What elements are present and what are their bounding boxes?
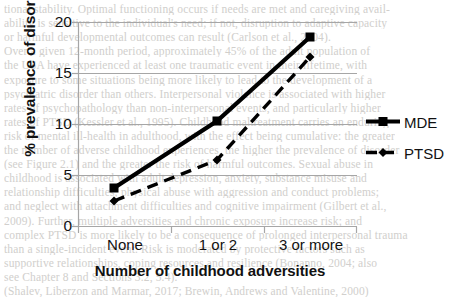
ptsd-marker-none [110, 197, 119, 206]
ptsd-line [114, 57, 310, 201]
y-tick-5: 5 [38, 166, 72, 184]
y-axis-ticks [72, 23, 78, 227]
y-tick-0: 0 [38, 217, 72, 235]
series-mde [110, 33, 315, 193]
gridlines [78, 23, 357, 176]
mde-line [114, 37, 310, 188]
y-tick-20: 20 [38, 13, 72, 31]
series-ptsd [110, 53, 315, 206]
y-tick-15: 15 [38, 64, 72, 82]
mde-marker-none [110, 184, 119, 193]
y-tick-10: 10 [38, 115, 72, 133]
x-tick-1or2: 1 or 2 [171, 236, 265, 253]
x-axis-ticks [79, 227, 357, 234]
x-tick-none: None [78, 236, 172, 253]
x-axis-title: Number of childhood adversities [60, 262, 360, 279]
x-tick-3ormore: 3 or more [264, 236, 358, 253]
legend-swatch-ptsd [366, 148, 400, 157]
y-axis-title: % prevalence of disorder [21, 0, 39, 177]
mde-marker-1or2 [213, 117, 222, 126]
legend-label-ptsd: PTSD [404, 145, 444, 162]
ptsd-marker-3ormore [306, 53, 315, 62]
legend-swatch-mde [366, 117, 400, 126]
mde-marker-3ormore [306, 33, 315, 42]
legend-label-mde: MDE [404, 114, 437, 131]
